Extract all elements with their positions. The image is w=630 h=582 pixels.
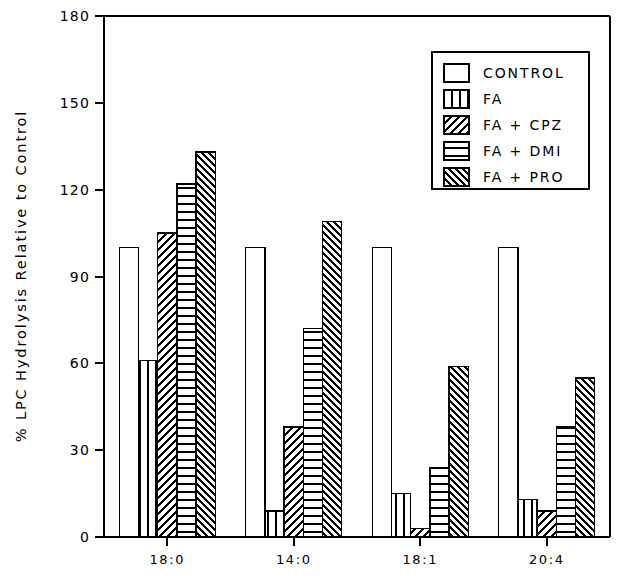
bar-18-0-control <box>119 248 138 537</box>
y-axis-title: % LPC Hydrolysis Relative to Control <box>13 110 29 443</box>
bar-18-0-fa-cpz <box>158 233 177 537</box>
y-tick-label: 150 <box>60 95 90 111</box>
bar-18-1-fa-pro <box>449 366 468 537</box>
bar-20-4-control <box>499 248 518 537</box>
bar-14-0-fa-cpz <box>284 427 303 537</box>
legend-label-control: CONTROL <box>483 65 565 81</box>
legend-swatch-fa-dmi <box>444 142 469 160</box>
legend-label-fa: FA <box>483 91 503 107</box>
y-tick-label: 0 <box>80 529 90 545</box>
chart-canvas: 0306090120150180 18:014:018:120:4 % LPC … <box>0 0 630 582</box>
bar-18-1-control <box>372 248 391 537</box>
x-tick-label: 18:0 <box>149 552 185 567</box>
y-tick-label: 120 <box>60 182 90 198</box>
legend-label-fa-pro: FA + PRO <box>483 169 564 185</box>
legend-label-fa-cpz: FA + CPZ <box>483 117 563 133</box>
x-axis-ticks: 18:014:018:120:4 <box>149 537 564 567</box>
legend-swatch-control <box>444 64 469 82</box>
legend-swatch-fa <box>444 90 469 108</box>
bar-18-1-fa <box>391 494 410 537</box>
bar-18-1-fa-dmi <box>430 468 449 537</box>
chart-legend: CONTROLFAFA + CPZFA + DMIFA + PRO <box>432 52 589 189</box>
bar-14-0-fa <box>265 511 284 537</box>
bar-18-0-fa-pro <box>196 152 215 537</box>
bars-layer <box>119 152 595 537</box>
x-tick-label: 20:4 <box>529 552 565 567</box>
bar-14-0-fa-pro <box>323 222 342 537</box>
y-tick-label: 30 <box>70 442 90 458</box>
bar-20-4-fa-cpz <box>537 511 556 537</box>
legend-label-fa-dmi: FA + DMI <box>483 143 562 159</box>
bar-14-0-fa-dmi <box>303 329 322 537</box>
legend-swatch-fa-cpz <box>444 116 469 134</box>
bar-14-0-control <box>246 248 265 537</box>
y-axis-ticks: 0306090120150180 <box>60 8 104 545</box>
y-tick-label: 60 <box>70 355 90 371</box>
bar-chart-figure: 0306090120150180 18:014:018:120:4 % LPC … <box>0 0 630 582</box>
x-tick-label: 18:1 <box>402 552 438 567</box>
x-tick-label: 14:0 <box>276 552 312 567</box>
bar-18-0-fa <box>138 360 157 537</box>
y-tick-label: 180 <box>60 8 90 24</box>
bar-20-4-fa-pro <box>576 378 595 537</box>
y-tick-label: 90 <box>70 269 90 285</box>
bar-20-4-fa <box>518 499 537 537</box>
bar-20-4-fa-dmi <box>556 427 575 537</box>
bar-18-1-fa-cpz <box>411 528 430 537</box>
bar-18-0-fa-dmi <box>177 184 196 537</box>
legend-swatch-fa-pro <box>444 168 469 186</box>
